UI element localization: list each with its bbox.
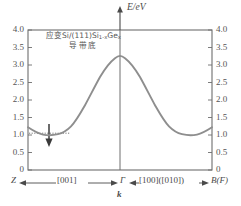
ytick-right-label-2-0: 2.0 xyxy=(216,95,227,104)
annotation-line-2: 导带底 xyxy=(31,41,136,51)
xaxis-direction-100-010: [100]([010]) xyxy=(139,176,184,185)
ytick-right-label-3-5: 3.5 xyxy=(216,43,227,52)
ytick-label-2-0: 2.0 xyxy=(2,95,24,104)
ytick-label-1-5: 1.5 xyxy=(2,113,24,122)
material-annotation: 应变Si/(111)Si1-xGex 导带底 xyxy=(31,31,136,52)
xaxis-point-bf: B(F) xyxy=(211,176,228,185)
xaxis-direction-001: [001] xyxy=(57,176,77,185)
energy-axis-title-text: E/eV xyxy=(127,2,145,12)
momentum-axis-title: k xyxy=(117,190,122,199)
energy-axis-title: E/eV xyxy=(127,3,145,13)
ytick-right-label-1-0: 1.0 xyxy=(216,130,227,139)
annotation-subscript-2: x xyxy=(118,34,121,40)
right-segment-arrowhead-left xyxy=(129,180,136,186)
ytick-right-label-3-0: 3.0 xyxy=(216,60,227,69)
xaxis-point-gamma: Γ xyxy=(120,176,125,185)
ytick-right-label-2-5: 2.5 xyxy=(216,78,227,87)
ytick-right-label-4-0: 4.0 xyxy=(216,25,227,34)
ytick-right-label-1-5: 1.5 xyxy=(216,113,227,122)
left-segment-arrowhead-left xyxy=(19,180,26,186)
left-segment-arrowhead-right xyxy=(111,180,118,186)
ytick-label-0-5: 0.5 xyxy=(2,148,24,157)
ytick-label-2-5: 2.5 xyxy=(2,78,24,87)
xaxis-point-z: Z xyxy=(11,176,16,185)
ytick-right-label-0-5: 0.5 xyxy=(216,148,227,157)
band-structure-figure: 4.0 3.5 3.0 2.5 2.0 1.5 1.0 0.5 0 4.0 3.… xyxy=(0,0,241,206)
energy-axis-arrowhead xyxy=(117,6,123,12)
ytick-label-3-5: 3.5 xyxy=(2,43,24,52)
ytick-label-1-0: 1.0 xyxy=(2,130,24,139)
right-segment-arrowhead-right xyxy=(202,180,209,186)
ytick-label-4-0: 4.0 xyxy=(2,25,24,34)
ytick-label-3-0: 3.0 xyxy=(2,60,24,69)
annotation-line-1: 应变Si/(111)Si1-xGex xyxy=(31,31,136,41)
annotation-formula-prefix: 应变Si/(111)Si xyxy=(46,31,99,40)
annotation-formula-mid: Ge xyxy=(107,31,118,40)
right-axis-ticks xyxy=(208,30,212,170)
band-offset-arrow-head xyxy=(45,139,52,148)
